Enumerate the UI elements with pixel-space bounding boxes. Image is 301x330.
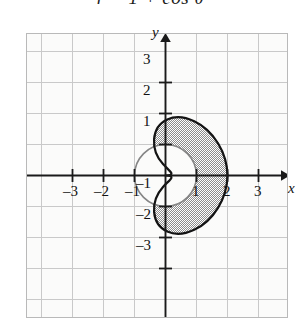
axis-lines (27, 40, 281, 317)
x-axis-arrowhead (281, 170, 287, 181)
y-axis-arrowhead (160, 34, 171, 42)
plot-area (26, 33, 288, 318)
x-axis-label: x (288, 180, 295, 197)
figure-title: r = 1 + cos θ (0, 0, 301, 9)
title-text: r = 1 + cos θ (97, 0, 204, 8)
curves-layer (27, 34, 287, 317)
figure: r = 1 + cos θ (0, 0, 301, 330)
